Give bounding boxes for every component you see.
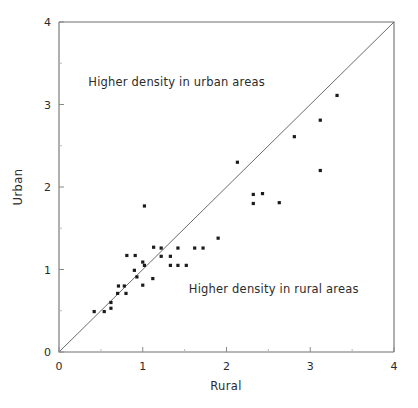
x-tick-label: 2 xyxy=(223,360,230,373)
data-point xyxy=(160,246,163,249)
data-point xyxy=(103,310,106,313)
data-point xyxy=(169,264,172,267)
data-point xyxy=(261,192,264,195)
scatter-plot-figure: 01234 01234 Rural Urban Higher density i… xyxy=(0,0,418,408)
data-point xyxy=(185,264,188,267)
annotation-rural: Higher density in rural areas xyxy=(189,282,359,296)
data-point xyxy=(134,254,137,257)
data-point xyxy=(151,277,154,280)
annotation-urban: Higher density in urban areas xyxy=(88,75,265,89)
data-point xyxy=(124,292,127,295)
data-point xyxy=(319,119,322,122)
x-tick-label: 1 xyxy=(139,360,146,373)
data-point xyxy=(252,193,255,196)
data-point xyxy=(117,284,120,287)
plot-canvas: 01234 01234 Rural Urban Higher density i… xyxy=(0,0,418,408)
data-point xyxy=(135,275,138,278)
data-point xyxy=(141,260,144,263)
data-point xyxy=(160,255,163,258)
data-point xyxy=(176,264,179,267)
data-point xyxy=(236,161,239,164)
y-tick-label: 4 xyxy=(44,16,51,29)
y-tick-label: 1 xyxy=(44,264,51,277)
data-point xyxy=(143,264,146,267)
data-point xyxy=(133,269,136,272)
data-point xyxy=(141,284,144,287)
y-axis-title: Urban xyxy=(11,169,25,206)
data-point xyxy=(293,135,296,138)
data-point xyxy=(125,254,128,257)
data-point xyxy=(335,94,338,97)
x-tick-label: 4 xyxy=(391,360,398,373)
data-point xyxy=(201,246,204,249)
data-point xyxy=(116,292,119,295)
y-tick-label: 0 xyxy=(44,346,51,359)
data-point xyxy=(123,284,126,287)
data-point xyxy=(109,307,112,310)
data-point xyxy=(152,246,155,249)
x-axis-title: Rural xyxy=(210,379,242,393)
x-tick-label: 0 xyxy=(56,360,63,373)
data-point xyxy=(252,202,255,205)
data-point xyxy=(217,237,220,240)
data-point xyxy=(143,204,146,207)
data-point xyxy=(93,310,96,313)
y-tick-label: 3 xyxy=(44,99,51,112)
data-point xyxy=(169,255,172,258)
data-point xyxy=(193,246,196,249)
data-point xyxy=(278,201,281,204)
y-tick-label: 2 xyxy=(44,181,51,194)
x-tick-label: 3 xyxy=(307,360,314,373)
data-point xyxy=(319,169,322,172)
data-point xyxy=(176,246,179,249)
data-point xyxy=(109,301,112,304)
